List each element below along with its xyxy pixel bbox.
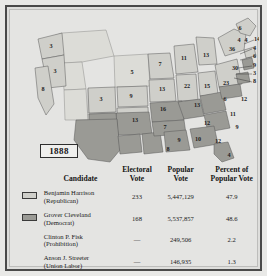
electoral-vote-cell: —	[117, 229, 157, 251]
svg-text:4: 4	[237, 36, 240, 43]
svg-text:10: 10	[195, 135, 201, 142]
svg-text:4: 4	[244, 36, 247, 43]
figure-border: .rep{fill:#cfcfca;stroke:#585858;stroke-…	[5, 5, 262, 271]
table-row: Anson J. Streeter (Union Labor) — 146,93…	[18, 251, 259, 273]
legend-swatch-democrat	[22, 214, 37, 221]
header-electoral-vote-line2: Vote	[117, 175, 157, 184]
legend-swatch-cell	[18, 208, 42, 230]
electoral-vote-cell: —	[117, 251, 157, 273]
candidate-party: (Prohibition)	[44, 240, 117, 248]
legend-swatch-cell	[18, 229, 42, 251]
svg-text:9: 9	[253, 61, 256, 68]
table-row: Clinton P. Fisk (Prohibition) — 249,506 …	[18, 229, 259, 251]
svg-text:7: 7	[163, 123, 166, 130]
svg-text:5: 5	[130, 68, 133, 75]
candidate-cell: Grover Cleveland (Democrat)	[42, 208, 117, 230]
svg-text:4: 4	[227, 151, 230, 158]
year-label-box: 1888	[40, 144, 78, 158]
candidate-cell: Clinton P. Fisk (Prohibition)	[42, 229, 117, 251]
electoral-vote-cell: 168	[117, 208, 157, 230]
percent-cell: 47.9	[204, 186, 259, 208]
svg-text:22: 22	[184, 82, 190, 89]
svg-text:3: 3	[53, 67, 56, 74]
legend-swatch-republican	[22, 192, 37, 199]
candidate-name: Benjamin Harrison	[44, 189, 117, 197]
svg-text:16: 16	[160, 105, 166, 112]
svg-text:9: 9	[235, 123, 238, 130]
results-table: Candidate Electoral Vote Popular Vote Pe…	[18, 166, 259, 273]
results-table-wrap: Candidate Electoral Vote Popular Vote Pe…	[18, 166, 259, 273]
percent-cell: 48.6	[204, 208, 259, 230]
header-electoral-vote: Electoral Vote	[117, 166, 157, 186]
header-candidate: Candidate	[42, 166, 117, 186]
table-row: Grover Cleveland (Democrat) 168 5,537,85…	[18, 208, 259, 230]
figure-root: .rep{fill:#cfcfca;stroke:#585858;stroke-…	[0, 0, 267, 276]
popular-vote-cell: 5,447,129	[157, 186, 205, 208]
candidate-party: (Democrat)	[44, 219, 117, 227]
percent-cell: 1.3	[204, 251, 259, 273]
svg-text:12: 12	[204, 119, 210, 126]
svg-text:6: 6	[238, 24, 241, 31]
header-popular-vote-line2: Vote	[157, 175, 205, 184]
svg-text:6: 6	[253, 52, 256, 59]
candidate-party: (Republican)	[44, 197, 117, 205]
svg-text:8: 8	[41, 85, 44, 92]
electoral-vote-cell: 233	[117, 186, 157, 208]
candidate-name: Anson J. Streeter	[44, 254, 117, 262]
svg-text:6: 6	[223, 95, 226, 102]
svg-text:13: 13	[194, 101, 200, 108]
svg-text:13: 13	[132, 116, 138, 123]
us-map-svg: .rep{fill:#cfcfca;stroke:#585858;stroke-…	[18, 16, 259, 164]
candidate-party: (Union Labor)	[44, 262, 117, 270]
table-body: Benjamin Harrison (Republican) 233 5,447…	[18, 186, 259, 273]
legend-swatch-cell	[18, 251, 42, 273]
candidate-name: Clinton P. Fisk	[44, 233, 117, 241]
svg-text:3: 3	[99, 95, 102, 102]
svg-text:7: 7	[158, 60, 161, 67]
header-popular-vote: Popular Vote	[157, 166, 205, 186]
svg-text:30: 30	[232, 64, 238, 71]
svg-text:12: 12	[241, 95, 247, 102]
svg-text:11: 11	[230, 110, 236, 117]
svg-text:3: 3	[253, 69, 256, 76]
header-percent: Percent of Popular Vote	[204, 166, 259, 186]
svg-text:4: 4	[253, 44, 256, 51]
popular-vote-cell: 249,506	[157, 229, 205, 251]
svg-text:3: 3	[49, 42, 52, 49]
svg-text:12: 12	[215, 137, 221, 144]
svg-text:9: 9	[177, 136, 180, 143]
header-percent-line2: Popular Vote	[204, 175, 259, 184]
table-header-row: Candidate Electoral Vote Popular Vote Pe…	[18, 166, 259, 186]
svg-text:13: 13	[203, 51, 209, 58]
legend-swatch-cell	[18, 186, 42, 208]
electoral-map: .rep{fill:#cfcfca;stroke:#585858;stroke-…	[18, 16, 259, 164]
popular-vote-cell: 146,935	[157, 251, 205, 273]
svg-text:8: 8	[253, 77, 256, 84]
candidate-cell: Anson J. Streeter (Union Labor)	[42, 251, 117, 273]
svg-text:8: 8	[166, 145, 169, 152]
candidate-name: Grover Cleveland	[44, 211, 117, 219]
svg-text:11: 11	[181, 54, 187, 61]
percent-cell: 2.2	[204, 229, 259, 251]
header-swatch	[18, 166, 42, 186]
figure-panel: .rep{fill:#cfcfca;stroke:#585858;stroke-…	[9, 9, 258, 267]
svg-text:23: 23	[223, 79, 229, 86]
year-label: 1888	[49, 146, 69, 156]
popular-vote-cell: 5,537,857	[157, 208, 205, 230]
svg-text:36: 36	[229, 45, 235, 52]
candidate-cell: Benjamin Harrison (Republican)	[42, 186, 117, 208]
svg-text:15: 15	[204, 82, 210, 89]
svg-text:9: 9	[129, 92, 132, 99]
svg-text:14: 14	[254, 35, 259, 42]
callout-vote-labels: 14 4 6 9 3 8	[253, 35, 259, 84]
table-row: Benjamin Harrison (Republican) 233 5,447…	[18, 186, 259, 208]
svg-text:13: 13	[159, 85, 165, 92]
